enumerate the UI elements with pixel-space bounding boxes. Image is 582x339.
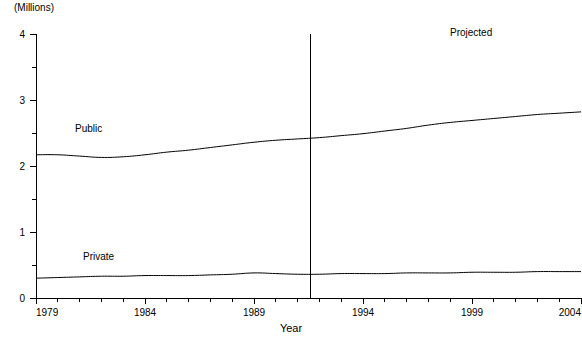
data-series-group <box>36 112 581 278</box>
x-tick-label: 1984 <box>134 307 157 318</box>
y-tick-label: 2 <box>19 161 25 172</box>
line-chart: (Millions) 01234 19791984198919941999200… <box>0 0 582 339</box>
x-axis-ticks <box>36 298 581 304</box>
projected-annotation-label: Projected <box>450 27 492 38</box>
x-tick-label: 1989 <box>243 307 266 318</box>
x-tick-label: 1979 <box>36 307 59 318</box>
series-line-private <box>36 272 581 279</box>
x-tick-label: 2004 <box>559 307 582 318</box>
series-line-public <box>36 112 581 158</box>
chart-container: (Millions) 01234 19791984198919941999200… <box>0 0 582 339</box>
x-tick-label: 1994 <box>352 307 375 318</box>
y-axis-ticks <box>30 34 36 298</box>
y-tick-label: 0 <box>19 293 25 304</box>
series-label-public: Public <box>75 123 102 134</box>
y-tick-label: 1 <box>19 227 25 238</box>
y-tick-label: 4 <box>19 29 25 40</box>
y-tick-label: 3 <box>19 95 25 106</box>
y-axis-tick-labels: 01234 <box>19 29 25 304</box>
x-axis-title: Year <box>280 322 303 334</box>
x-axis-tick-labels: 197919841989199419992004 <box>36 307 581 318</box>
x-tick-label: 1999 <box>461 307 484 318</box>
y-axis-unit-label: (Millions) <box>14 2 54 13</box>
series-label-private: Private <box>83 251 115 262</box>
